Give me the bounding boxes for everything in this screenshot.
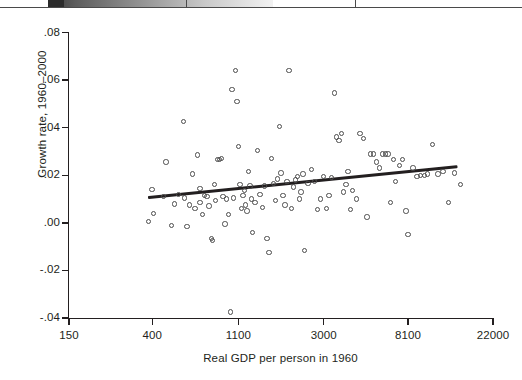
scatter-point (243, 202, 248, 207)
scatter-point (242, 188, 247, 193)
x-axis-tick (407, 318, 408, 325)
scatter-point (275, 176, 280, 181)
scatter-point (298, 189, 303, 194)
scatter-point (197, 200, 202, 205)
scatter-point (176, 192, 181, 197)
scatter-point (172, 201, 177, 206)
x-axis-tick (68, 318, 69, 325)
scatter-point (240, 193, 245, 198)
scatter-point (452, 170, 457, 175)
scatter-point (229, 87, 234, 92)
x-axis-tick (492, 318, 493, 325)
scatter-point (219, 156, 224, 161)
page-edge-artifact (0, 0, 522, 9)
y-axis-tick-label: -.04 (2, 312, 60, 324)
scatter-point (309, 167, 314, 172)
scatter-point (273, 198, 278, 203)
scatter-point (197, 186, 202, 191)
y-axis-tick-label: .00 (2, 217, 60, 229)
scatter-point (169, 223, 174, 228)
scatter-point (250, 230, 255, 235)
scatter-point (269, 156, 274, 161)
scatter-point (262, 183, 267, 188)
scatter-point (291, 184, 296, 189)
scatter-point (393, 179, 398, 184)
scatter-point (295, 174, 300, 179)
scatter-point (305, 181, 310, 186)
scatter-point (397, 163, 402, 168)
scatter-point (184, 224, 189, 229)
scatter-point (151, 211, 156, 216)
scatter-point (318, 196, 323, 201)
scatter-point (403, 208, 408, 213)
scatter-point (163, 159, 168, 164)
scatter-point (324, 206, 329, 211)
x-axis-tick-label: 3000 (289, 329, 359, 341)
scatter-point (255, 148, 260, 153)
scatter-point (446, 200, 451, 205)
scatter-point (146, 219, 151, 224)
scatter-point (400, 157, 405, 162)
scatter-point (410, 165, 415, 170)
scatter-point (371, 151, 376, 156)
scatter-point (282, 202, 287, 207)
scatter-point (247, 183, 252, 188)
page-edge-rule (0, 7, 522, 8)
scatter-point (278, 170, 283, 175)
page-edge-tick-1 (186, 0, 187, 8)
scatter-point (277, 124, 282, 129)
scatter-point (234, 99, 239, 104)
scatter-point (204, 194, 209, 199)
scatter-point (312, 179, 317, 184)
scatter-point (300, 171, 305, 176)
scatter-point (343, 182, 348, 187)
scatter-point (440, 169, 445, 174)
plot-area (68, 32, 493, 319)
x-axis-tick-label: 1100 (203, 329, 273, 341)
x-axis-tick-label: 400 (117, 329, 187, 341)
scatter-point (222, 221, 227, 226)
x-axis-tick-label: 150 (34, 329, 104, 341)
scatter-point (210, 238, 215, 243)
scatter-point (231, 195, 236, 200)
scatter-point (289, 206, 294, 211)
page-edge-tick-2 (355, 0, 356, 8)
x-axis-tick (323, 318, 324, 325)
scatter-point (200, 212, 205, 217)
y-axis-tick-label: .06 (2, 74, 60, 86)
scatter-point (236, 144, 241, 149)
scatter-point (458, 182, 463, 187)
scatter-point (246, 169, 251, 174)
scatter-point (332, 90, 337, 95)
x-axis-title: Real GDP per person in 1960 (68, 352, 493, 364)
scatter-point (302, 248, 307, 253)
scatter-point (339, 131, 344, 136)
scatter-point (391, 157, 396, 162)
y-axis-tick-label: .02 (2, 169, 60, 181)
y-axis-tick-label: -.02 (2, 264, 60, 276)
scatter-point (224, 196, 229, 201)
scatter-point (385, 151, 390, 156)
scatter-point (350, 188, 355, 193)
scatter-point (377, 165, 382, 170)
scatter-point (182, 195, 187, 200)
scatter-point (149, 187, 154, 192)
scatter-point (284, 179, 289, 184)
scatter-point (161, 194, 166, 199)
scatter-point (336, 138, 341, 143)
scatter-point (430, 142, 435, 147)
scatter-point (345, 169, 350, 174)
y-axis-tick-label: .04 (2, 122, 60, 134)
y-axis-title: Growth rate, 1960–2000 (36, 0, 48, 229)
scatter-point (192, 206, 197, 211)
scatter-point (425, 171, 430, 176)
scatter-point (297, 196, 302, 201)
scatter-point (206, 203, 211, 208)
x-axis-tick (238, 318, 239, 325)
scatter-point (190, 171, 195, 176)
scatter-point (405, 232, 410, 237)
scatter-point (388, 200, 393, 205)
scatter-point (354, 196, 359, 201)
y-axis-tick-label: .08 (2, 27, 60, 39)
scatter-point (364, 214, 369, 219)
